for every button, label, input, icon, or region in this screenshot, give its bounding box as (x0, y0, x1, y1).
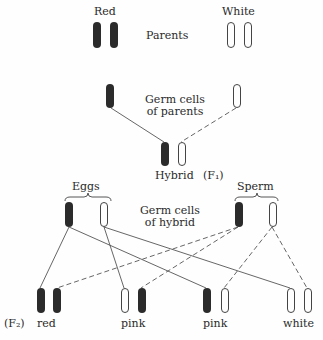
f2-red-label: red (37, 318, 56, 330)
red-parent-chromosomes (93, 22, 118, 48)
white-parent-label: White (222, 6, 255, 18)
parents-label: Parents (146, 30, 188, 42)
f2-label: (F₂) (4, 318, 25, 330)
germ-cells-hybrid-label-line2: of hybrid (134, 217, 206, 229)
hybrid-red-chromosome (161, 142, 169, 166)
egg-white-chromosome (101, 203, 108, 227)
egg-lines (40, 227, 290, 288)
white-parent-chromosomes (228, 23, 252, 48)
f2-pink-label-1: pink (121, 318, 145, 330)
sperm-red-chromosome (235, 202, 243, 227)
f2-white-label: white (283, 318, 314, 330)
eggs-label: Eggs (72, 181, 100, 193)
hybrid-white-chromosome (179, 143, 186, 166)
sperm-lines (57, 227, 307, 288)
sperm-brace (235, 193, 278, 201)
red-parent-label: Red (94, 6, 116, 18)
germ-cells-parents-label-line2: of parents (140, 106, 210, 118)
sperm-label: Sperm (237, 181, 274, 193)
f2-pink-pair-2 (203, 288, 229, 313)
f2-white-pair (288, 289, 312, 313)
eggs-brace (65, 193, 111, 201)
white-germ-cell (234, 85, 241, 108)
red-germ-cell (106, 84, 114, 108)
sperm-white-chromosome (270, 203, 277, 227)
f2-red-pair (37, 288, 61, 313)
mendelian-inheritance-diagram: Red White Parents Germ cells of parents … (0, 0, 323, 340)
f2-pink-pair-1 (122, 288, 147, 313)
f2-pink-label-2: pink (203, 318, 227, 330)
f1-label: (F₁) (203, 170, 224, 182)
egg-red-chromosome (65, 202, 73, 227)
hybrid-label: Hybrid (155, 170, 194, 182)
